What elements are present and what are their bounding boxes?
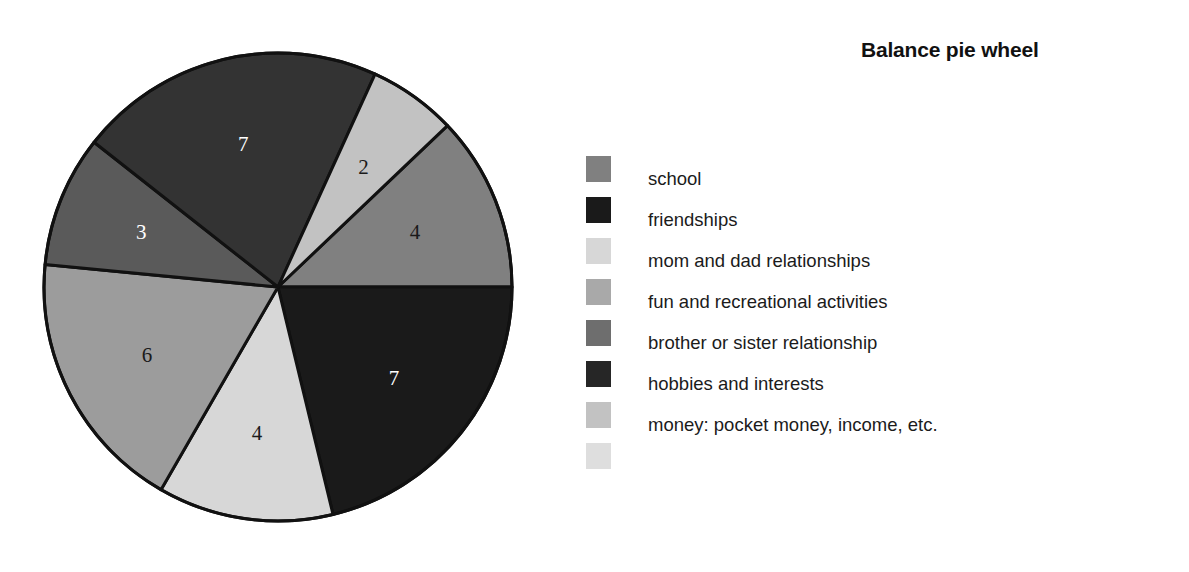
pie-slice-value-label: 2: [358, 155, 369, 179]
legend-swatch-icon: [586, 402, 611, 428]
legend-swatch-icon: [586, 279, 611, 305]
legend-item-label: money: pocket money, income, etc.: [648, 415, 938, 435]
legend-swatch-icon: [586, 361, 611, 387]
chart-legend: schoolfriendshipsmom and dad relationshi…: [586, 152, 1146, 480]
pie-chart: 4746372: [30, 28, 530, 548]
pie-slice-value-label: 7: [389, 366, 400, 390]
legend-swatch-icon: [586, 156, 611, 182]
legend-item-label: friendships: [648, 210, 737, 230]
pie-slice-value-label: 6: [142, 343, 153, 367]
chart-title: Balance pie wheel: [861, 38, 1039, 62]
legend-item[interactable]: brother or sister relationship: [586, 316, 1146, 357]
balance-pie-wheel-figure: 4746372 Balance pie wheel schoolfriendsh…: [0, 0, 1189, 572]
legend-item-label: school: [648, 169, 701, 189]
legend-item-label: brother or sister relationship: [648, 333, 877, 353]
legend-item-label: mom and dad relationships: [648, 251, 870, 271]
legend-item[interactable]: money: pocket money, income, etc.: [586, 398, 1146, 439]
legend-item[interactable]: mom and dad relationships: [586, 234, 1146, 275]
pie-slice-value-label: 4: [410, 220, 421, 244]
legend-item-label: hobbies and interests: [648, 374, 824, 394]
legend-item-label: fun and recreational activities: [648, 292, 888, 312]
pie-slice-value-label: 7: [238, 132, 249, 156]
legend-swatch-icon: [586, 320, 611, 346]
legend-item[interactable]: hobbies and interests: [586, 357, 1146, 398]
legend-item[interactable]: [586, 439, 1146, 480]
legend-swatch-icon: [586, 197, 611, 223]
pie-slice-value-label: 4: [252, 421, 263, 445]
legend-item[interactable]: school: [586, 152, 1146, 193]
pie-slice-value-label: 3: [136, 220, 147, 244]
legend-item[interactable]: friendships: [586, 193, 1146, 234]
pie-chart-svg: 4746372: [30, 28, 530, 548]
legend-item[interactable]: fun and recreational activities: [586, 275, 1146, 316]
pie-slice-group: [44, 53, 512, 521]
legend-swatch-icon: [586, 238, 611, 264]
legend-swatch-icon: [586, 443, 611, 469]
